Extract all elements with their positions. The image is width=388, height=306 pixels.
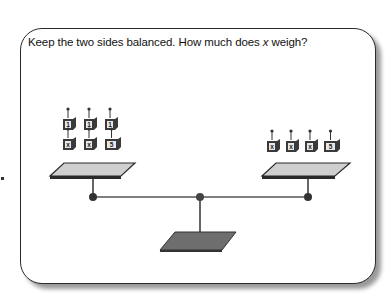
weight-x: x: [63, 127, 76, 150]
left-weights: 111xx5: [63, 107, 121, 150]
left-pan: [50, 163, 135, 176]
weight-1: 1: [63, 107, 76, 130]
svg-text:5: 5: [329, 143, 333, 150]
svg-text:x: x: [308, 143, 312, 150]
scale-base: [160, 232, 236, 250]
right-weights: xxx5: [267, 129, 340, 152]
svg-text:5: 5: [110, 141, 114, 148]
balance-scale: 111xx5 xxx5: [0, 0, 388, 306]
svg-text:x: x: [270, 143, 274, 150]
center-pivot: [196, 193, 204, 201]
svg-text:x: x: [289, 143, 293, 150]
svg-text:1: 1: [87, 121, 91, 128]
svg-text:1: 1: [66, 121, 70, 128]
svg-text:x: x: [66, 141, 70, 148]
right-pan: [262, 163, 350, 176]
weight-x: x: [84, 127, 97, 150]
weight-5: 5: [105, 127, 121, 150]
weight-x: x: [286, 129, 299, 152]
svg-text:x: x: [87, 141, 91, 148]
right-joint: [304, 193, 312, 201]
weight-5: 5: [324, 129, 340, 152]
weight-x: x: [267, 129, 280, 152]
weight-1: 1: [105, 107, 118, 130]
weight-1: 1: [84, 107, 97, 130]
left-joint: [89, 193, 97, 201]
weight-x: x: [305, 129, 318, 152]
svg-text:1: 1: [108, 121, 112, 128]
